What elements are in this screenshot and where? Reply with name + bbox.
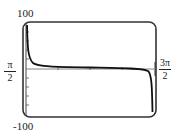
plot-area	[0, 0, 176, 132]
